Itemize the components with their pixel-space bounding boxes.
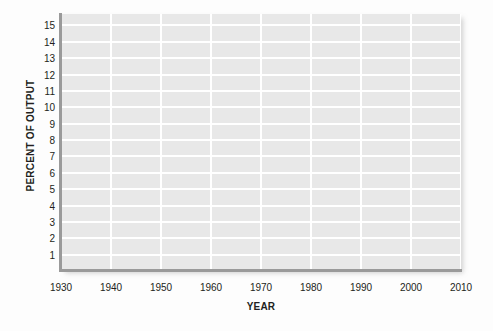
y-axis-line xyxy=(59,13,62,272)
x-axis-line xyxy=(59,269,462,272)
gridline-vertical xyxy=(360,14,362,271)
gridline-vertical xyxy=(110,14,112,271)
gridline-vertical xyxy=(260,14,262,271)
gridline-vertical xyxy=(410,14,412,271)
x-tick-label: 2010 xyxy=(431,282,491,293)
gridline-vertical xyxy=(460,14,462,271)
y-axis-title: PERCENT OF OUTPUT xyxy=(25,36,36,236)
gridline-vertical xyxy=(310,14,312,271)
y-axis-title-wrapper: PERCENT OF OUTPUT xyxy=(0,0,30,290)
gridline-vertical xyxy=(160,14,162,271)
x-axis-title: YEAR xyxy=(61,301,461,312)
plot-area xyxy=(61,14,461,271)
chart-screenshot: 151413121110987654321 PERCENT OF OUTPUT … xyxy=(0,0,493,331)
gridline-vertical xyxy=(210,14,212,271)
